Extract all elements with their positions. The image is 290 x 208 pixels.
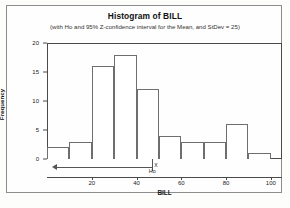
x-tick-label: 60 [178,180,185,186]
confidence-interval-line [56,167,152,168]
x-tick-label: 20 [88,180,95,186]
x-tick-label: 40 [133,180,140,186]
x-tick-label: 100 [266,180,276,186]
y-tick-label: 20 [32,40,39,46]
histogram-bar [92,66,114,159]
chart-title: Histogram of BILL [0,11,290,21]
y-tick-label: 10 [32,98,39,104]
null-hypothesis-label: Ho [149,168,156,174]
chart-subtitle: (with Ho and 95% Z-confidence interval f… [0,23,290,30]
x-axis-line [47,177,282,178]
confidence-interval-left-arrow-icon [52,164,57,170]
x-tick-label: 80 [223,180,230,186]
x-axis-title: BILL [47,189,282,196]
histogram-bar [69,142,91,159]
histogram-screenshot: Histogram of BILL (with Ho and 95% Z-con… [0,0,290,208]
y-axis: Frequency 05101520 [0,43,47,159]
histogram-bar [226,124,248,159]
y-tick-label: 15 [32,69,39,75]
y-tick-label: 0 [36,156,39,162]
y-axis-title: Frequency [0,89,5,120]
y-tick-label: 5 [36,127,39,133]
histogram-bar [137,89,159,159]
plot-area [47,43,282,159]
histogram-bar [159,136,181,159]
confidence-interval-annotation: HoX [47,159,282,177]
histogram-bar [204,142,226,159]
histogram-bar [114,55,136,159]
histogram-bar [47,147,69,159]
histogram-bar [181,142,203,159]
sample-mean-label: X [154,162,157,168]
